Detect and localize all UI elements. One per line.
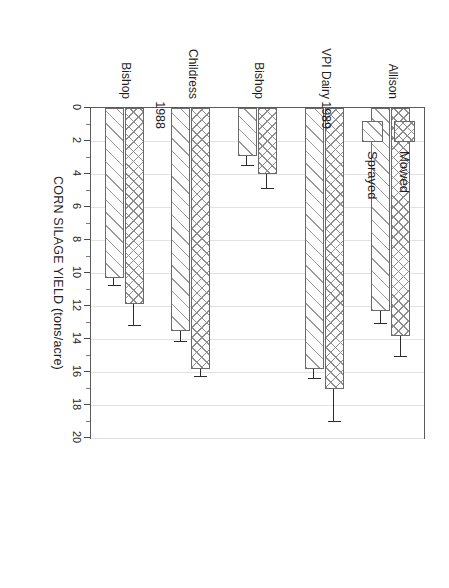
tick-major (84, 305, 90, 306)
legend-item-sprayed: Sprayed (362, 121, 383, 199)
bar-sprayed-0 (104, 108, 123, 278)
tick-label-16: 16 (71, 365, 82, 377)
error-bar-sprayed-0 (104, 278, 123, 286)
tick-label-18: 18 (71, 398, 82, 410)
error-bar-mowed-3 (324, 389, 343, 422)
gridline (91, 372, 424, 373)
tick-label-12: 12 (71, 299, 82, 311)
tick-label-14: 14 (71, 332, 82, 344)
tick-label-20: 20 (71, 431, 82, 443)
tick-label-4: 4 (71, 170, 82, 176)
tick-minor (86, 190, 90, 191)
bar-mowed-0 (124, 108, 143, 304)
value-axis-title: CORN SILAGE YIELD (tons/acre) (51, 107, 65, 439)
tick-label-10: 10 (71, 266, 82, 278)
bar-mowed-3 (324, 108, 343, 389)
tick-minor (86, 289, 90, 290)
tick-major (84, 404, 90, 405)
tick-minor (86, 322, 90, 323)
error-bar-sprayed-4 (371, 311, 390, 324)
legend-swatch-sprayed-icon (362, 121, 383, 142)
legend-swatch-mowed-icon (394, 121, 415, 142)
tick-minor (86, 157, 90, 158)
tick-major (84, 239, 90, 240)
tick-minor (86, 421, 90, 422)
legend-item-mowed: Mowed (394, 121, 415, 199)
tick-major (84, 371, 90, 372)
chart-legend: Mowed Sprayed (351, 121, 415, 199)
error-bar-sprayed-3 (304, 369, 323, 379)
gridline (91, 405, 424, 406)
tick-major (84, 272, 90, 273)
error-bar-mowed-4 (391, 336, 410, 357)
bar-sprayed-1 (171, 108, 190, 331)
category-axis-labels: BishopChildressBishopVPI DairyAllison198… (90, 29, 425, 103)
error-bar-mowed-1 (191, 369, 210, 377)
error-bar-mowed-2 (258, 174, 277, 189)
legend-label-mowed: Mowed (397, 151, 412, 193)
tick-major (84, 107, 90, 108)
gridline (91, 339, 424, 340)
group-label-1989: 1989 (319, 101, 333, 129)
tick-label-2: 2 (71, 137, 82, 143)
tick-label-0: 0 (71, 104, 82, 110)
error-bar-mowed-0 (124, 304, 143, 325)
bar-mowed-1 (191, 108, 210, 369)
error-bar-sprayed-2 (238, 156, 257, 166)
category-label-2: Bishop (252, 62, 266, 99)
tick-major (84, 206, 90, 207)
tick-label-8: 8 (71, 236, 82, 242)
group-label-1988: 1988 (152, 101, 166, 129)
tick-major (84, 140, 90, 141)
category-label-4: Allison (385, 64, 399, 99)
legend-label-sprayed: Sprayed (365, 151, 380, 199)
tick-label-6: 6 (71, 203, 82, 209)
bar-sprayed-3 (304, 108, 323, 369)
figure-chart: BishopChildressBishopVPI DairyAllison198… (43, 29, 443, 559)
category-label-0: Bishop (119, 62, 133, 99)
error-bar-sprayed-1 (171, 331, 190, 343)
tick-minor (86, 223, 90, 224)
tick-major (84, 173, 90, 174)
bar-sprayed-2 (238, 108, 257, 156)
tick-major (84, 437, 90, 438)
tick-minor (86, 124, 90, 125)
tick-minor (86, 388, 90, 389)
tick-minor (86, 355, 90, 356)
bar-mowed-2 (258, 108, 277, 174)
gridline (91, 438, 424, 439)
tick-minor (86, 256, 90, 257)
category-label-1: Childress (185, 49, 199, 99)
category-label-3: VPI Dairy (319, 48, 333, 99)
tick-major (84, 338, 90, 339)
